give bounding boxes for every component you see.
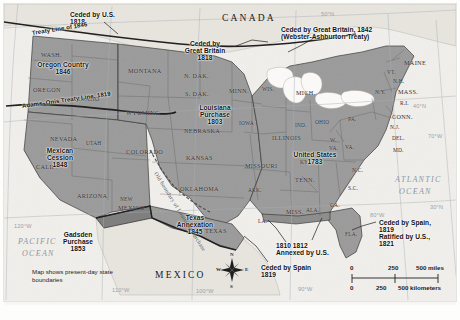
state-label-kansas-15: KANSAS [186,155,213,162]
graticule-label-30-n: 30°N [430,205,443,211]
state-label-ark-21: ARK. [248,188,262,194]
annotation-gadsden-purchase-1853-line-2: 1853 [63,246,93,253]
state-label-missouri-20: MISSOURI [245,163,277,170]
state-label-nebraska-14: NEBRASKA [184,128,220,135]
state-label-iowa-19: IOWA [239,121,254,127]
scale-miles-label: 500 miles [416,265,444,272]
map-note: Map shows present-day state boundaries [32,268,132,285]
graticule-label-110-w: 110°W [112,288,129,294]
state-label-nevada-5: NEVADA [50,136,77,143]
graticule-label-80-w: 80°W [370,213,385,219]
state-label-tenn-27: TENN. [295,177,315,184]
graticule-label-70-w: 70°W [428,134,443,140]
ocean-label-atlantic-0: ATLANTIC [395,176,442,184]
ocean-label-pacific-2: PACIFIC [18,238,57,246]
state-label-s-dak-13: S. DAK. [185,91,209,98]
compass-west-label: W [216,267,221,272]
annotation-louisiana-purchase-1803: LouisianaPurchase1803 [199,105,230,126]
state-label-mass-46: MASS. [398,89,418,96]
state-label-mexico-11: MEXICO [118,205,145,212]
annotation-united-states-1783: United States1783 [294,152,337,166]
annotation-webster-ashburton-1842-line-1: (Webster-Ashburton Treaty) [281,34,372,41]
state-label-w-37: W. [330,138,336,144]
state-label-n-j-43: N.J. [390,125,400,131]
state-label-ga-32: GA. [330,203,340,209]
annotation-ceded-by-great-britain-1818: Ceded byGreat Britain1818 [185,41,226,62]
region-oregon-country [28,36,118,120]
map-plate: CANADAMEXICO ATLANTICOCEANPACIFICOCEAN W… [0,0,460,320]
scale-km-tick-250: 250 [376,285,386,292]
annotation-webster-ashburton-1842: Ceded by Great Britain, 1842(Webster-Ash… [281,27,372,41]
graticule-label-100-w: 100°W [196,289,214,295]
state-label-del-42: DEL. [392,136,405,142]
scale-miles-tick-0: 0 [350,265,353,272]
state-label-s-c-34: S.C. [348,186,358,192]
annotation-oregon-country-1846: Oregon Country1846 [37,62,88,76]
state-label-wis-23: WIS. [262,87,274,93]
compass-south-label: S [230,284,233,289]
country-label-canada: CANADA [222,14,276,24]
state-label-md-41: MD. [393,148,404,154]
annotation-united-states-1783-line-1: 1783 [294,159,337,166]
annotation-annexed-by-us-1810-1812: 1810 1812Annexed by U.S. [276,243,329,257]
state-label-colorado-9: COLORADO [126,149,163,156]
scale-km-tick-0: 0 [350,285,353,292]
annotation-ceded-by-spain-1819-texas-line-1: 1819 [261,272,311,279]
state-label-va-36: VA. [345,145,354,151]
scale-miles-tick-250: 250 [388,265,398,272]
state-label-miss-25: MISS. [286,209,304,216]
state-label-wyoming-4: WYOMING [126,110,160,117]
country-label-mexico: MEXICO [155,271,206,281]
state-label-n-h-47: N.H. [393,79,404,85]
scale-km-label: 500 kilometers [398,285,441,292]
state-label-wash-0: WASH. [41,52,62,59]
annotation-mexican-cession-1848-line-2: 1848 [47,162,73,169]
state-label-ohio-31: OHIO [315,120,329,126]
state-label-conn-44: CONN. [392,114,413,121]
state-label-oregon-1: OREGON [33,87,61,94]
annotation-ceded-by-great-britain-1818-line-2: 1818 [185,55,226,62]
state-label-pa-39: PA. [348,117,356,123]
state-label-la-22: LA. [258,219,267,225]
annotation-mexican-cession-1848: MexicanCession1848 [47,148,73,169]
compass-north-label: N [230,252,234,257]
graticule-label-90-w: 90°W [298,287,313,293]
ocean-label-ocean-1: OCEAN [399,188,432,196]
state-label-maine-49: MAINE [404,60,426,67]
state-label-minn-18: MINN. [229,88,249,95]
graticule-label-40-n: 40°N [413,104,426,110]
state-label-new-10: NEW [120,197,133,203]
state-label-n-dak-12: N. DAK. [184,73,209,80]
annotation-ceded-by-spain-1819-florida: Ceded by Spain,1819Ratified by U.S.,1821 [379,220,431,248]
state-label-ind-29: IND. [295,123,307,129]
state-label-ala-26: ALA. [306,208,319,214]
state-label-n-c-35: N.C. [352,168,363,174]
compass-east-label: E [245,267,248,272]
annotation-oregon-country-1846-line-1: 1846 [37,69,88,76]
state-label-vt-48: VT. [387,70,396,76]
state-label-utah-6: UTAH [86,141,101,147]
annotation-annexed-by-us-1810-1812-line-1: Annexed by U.S. [276,250,329,257]
state-label-illinois-24: ILLINOIS [272,135,301,142]
ocean-label-ocean-3: OCEAN [22,250,55,258]
annotation-ceded-by-spain-1819-florida-line-3: 1821 [379,241,431,248]
state-label-arizona-8: ARIZONA [77,193,107,200]
state-label-n-y-40: N.Y. [375,90,386,96]
graticule-label-50-n: 50°N [321,12,334,18]
state-label-mich-30: MICH. [296,90,315,97]
graticule-label-120-w: 120°W [14,224,32,230]
annotation-ceded-by-spain-1819-texas: Ceded by Spain1819 [261,265,311,279]
state-label-fla-33: FLA. [345,232,357,238]
annotation-louisiana-purchase-1803-line-2: 1803 [199,119,230,126]
state-label-r-i-45: R.I. [400,101,409,107]
map-figure: CANADAMEXICO ATLANTICOCEANPACIFICOCEAN W… [0,0,460,320]
state-label-oklahoma-16: OKLAHOMA [180,186,219,193]
state-label-montana-3: MONTANA [128,68,162,75]
annotation-gadsden-purchase-1853: GadsdenPurchase1853 [63,232,93,253]
